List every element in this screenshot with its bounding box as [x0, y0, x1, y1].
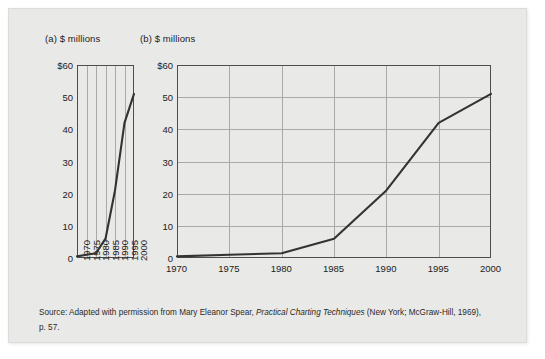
y-tick-label: 30 [141, 156, 173, 167]
chart-a-title: (a) $ millions [45, 33, 100, 44]
series-line-b [175, 63, 493, 260]
x-tick-label: 1970 [166, 263, 187, 274]
source-book-title: Practical Charting Techniques [256, 308, 364, 317]
y-tick-label: 40 [41, 124, 73, 135]
source-page: p. 57. [39, 320, 509, 335]
chart-b-title: (b) $ millions [140, 33, 195, 44]
x-tick-label: 1975 [218, 263, 239, 274]
y-tick-label: 20 [141, 188, 173, 199]
y-tick-label: 10 [41, 220, 73, 231]
source-suffix: (New York; McGraw-Hill, 1969), [365, 308, 481, 317]
source-note: Source: Adapted with permission from Mar… [39, 305, 509, 335]
x-tick-label: 1990 [375, 263, 396, 274]
x-tick-label: 1980 [271, 263, 292, 274]
y-tick-label: $60 [141, 60, 173, 71]
x-tick-label: 2000 [480, 263, 501, 274]
y-tick-label: 40 [141, 124, 173, 135]
y-tick-label: 30 [41, 156, 73, 167]
x-tick-label: 1985 [323, 263, 344, 274]
y-tick-label: 20 [41, 188, 73, 199]
y-tick-label: 10 [141, 220, 173, 231]
y-tick-label: $60 [41, 60, 73, 71]
source-prefix: Source: Adapted with permission from Mar… [39, 308, 256, 317]
figure-panel: (a) $ millions (b) $ millions 0102030405… [8, 8, 527, 343]
series-line-a [75, 63, 136, 260]
y-tick-label: 50 [41, 92, 73, 103]
x-tick-label: 1995 [428, 263, 449, 274]
y-tick-label: 50 [141, 92, 173, 103]
y-tick-label: 0 [41, 253, 73, 264]
y-tick-label: 0 [141, 253, 173, 264]
